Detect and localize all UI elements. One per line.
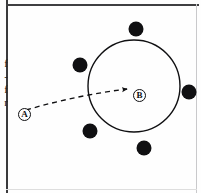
node-label-a: A [18, 108, 31, 121]
node-label-b: B [133, 89, 146, 102]
figure-container: f - f r A B [0, 0, 201, 193]
dot-lower-left [83, 124, 98, 139]
dot-right [182, 85, 197, 100]
dot-top [129, 22, 144, 37]
region-circle [88, 40, 180, 132]
dot-upper-left [73, 58, 88, 73]
obstacle-dot-group [73, 22, 197, 156]
diagram-vector-layer [0, 0, 201, 193]
dot-bottom [137, 141, 152, 156]
dashed-trajectory-arrow [26, 89, 127, 110]
